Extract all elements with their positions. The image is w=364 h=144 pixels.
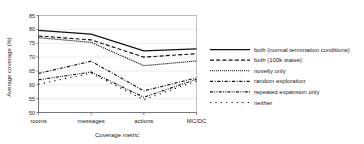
legend-label: random exploration bbox=[254, 78, 305, 84]
data-series-lines bbox=[39, 30, 197, 99]
y-tick-label: 70 bbox=[29, 54, 35, 60]
x-category-label: actions bbox=[134, 118, 153, 124]
y-tick-label: 85 bbox=[29, 13, 35, 19]
x-category-label: messages bbox=[77, 118, 104, 124]
x-axis-title: Coverage metric bbox=[95, 132, 139, 138]
x-category-label: MC/DC bbox=[187, 118, 207, 124]
legend-label: both (normal termination conditions) bbox=[254, 47, 350, 53]
chart-canvas: 5055606570758085 roomsmessagesactionsMC/… bbox=[0, 0, 364, 144]
x-category-label: rooms bbox=[30, 118, 47, 124]
legend-label: both (100k states) bbox=[254, 57, 302, 63]
plot-frame bbox=[39, 16, 197, 113]
y-tick-label: 50 bbox=[29, 110, 35, 116]
y-tick-label: 60 bbox=[29, 82, 35, 88]
y-axis-title: Average coverage (%) bbox=[6, 37, 12, 97]
y-tick-label: 65 bbox=[29, 68, 35, 74]
legend-label: neither bbox=[254, 100, 272, 106]
chart-legend: both (normal termination conditions)both… bbox=[210, 47, 350, 106]
legend-label: repeated expansion only bbox=[254, 89, 319, 95]
y-tick-label: 75 bbox=[29, 40, 35, 46]
x-axis-category-labels: roomsmessagesactionsMC/DC bbox=[30, 113, 207, 124]
series-line bbox=[39, 36, 197, 57]
y-axis-tick-labels: 5055606570758085 bbox=[29, 13, 39, 116]
y-tick-label: 55 bbox=[29, 96, 35, 102]
plot-border bbox=[39, 16, 197, 113]
series-line bbox=[39, 73, 197, 100]
line-chart-figure: 5055606570758085 roomsmessagesactionsMC/… bbox=[0, 0, 364, 144]
series-line bbox=[39, 30, 197, 51]
legend-label: novelty only bbox=[254, 68, 286, 74]
y-gridlines bbox=[39, 16, 197, 113]
y-tick-label: 80 bbox=[29, 26, 35, 32]
